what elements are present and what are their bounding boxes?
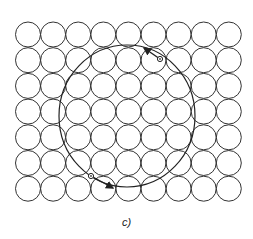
lattice-atom [41,176,66,201]
lattice-atom [166,22,191,47]
lattice-atom [141,125,166,150]
lattice-atom [141,22,166,47]
figure-caption: c) [0,216,253,228]
lattice-atom [16,48,41,73]
lattice-atom [191,125,216,150]
lattice-atom [116,151,141,176]
lattice-atom [66,125,91,150]
lattice-atom [66,22,91,47]
lattice-atom [216,99,241,124]
lattice-atom [141,73,166,98]
lattice-atom [41,99,66,124]
lattice-atom [41,151,66,176]
lattice-atom [191,22,216,47]
lattice-atom [16,125,41,150]
lattice-atom [116,48,141,73]
lattice-atom [91,48,116,73]
lattice-atom [91,176,116,201]
lattice-diagram [0,0,253,239]
lattice-atom [216,125,241,150]
lattice-atom [16,73,41,98]
lattice-atom [91,125,116,150]
lattice-atom [166,73,191,98]
lattice-atom [216,176,241,201]
lattice-atom [166,99,191,124]
lattice-atom [191,176,216,201]
lattice-atom [116,22,141,47]
lattice-atom [16,176,41,201]
lattice-atom [66,48,91,73]
lattice-atom [216,22,241,47]
lattice-atom [116,125,141,150]
lattice-atom [141,151,166,176]
lattice-atom [116,73,141,98]
lattice-atom [66,99,91,124]
lattice-atom [191,48,216,73]
lattice-atom [91,22,116,47]
lattice-atom [166,176,191,201]
lattice-atom [141,99,166,124]
lattice-atom [41,48,66,73]
lattice-atom [66,176,91,201]
lattice-atom [216,48,241,73]
lattice-atom [191,151,216,176]
orbit-path [59,45,195,187]
lattice-atom [116,99,141,124]
lattice-atom [216,151,241,176]
orbit-circle [59,45,195,187]
lattice-atom [16,22,41,47]
lattice-atom [116,176,141,201]
lattice-atom [16,151,41,176]
lattice-atom [41,22,66,47]
circle-lattice-grid [16,22,242,201]
lattice-atom [216,73,241,98]
lattice-atom [191,73,216,98]
lattice-atom [16,99,41,124]
lattice-atom [141,176,166,201]
lattice-atom [166,125,191,150]
lattice-atom [91,99,116,124]
lattice-atom [91,151,116,176]
particle-markers [88,48,162,188]
lattice-atom [91,73,116,98]
